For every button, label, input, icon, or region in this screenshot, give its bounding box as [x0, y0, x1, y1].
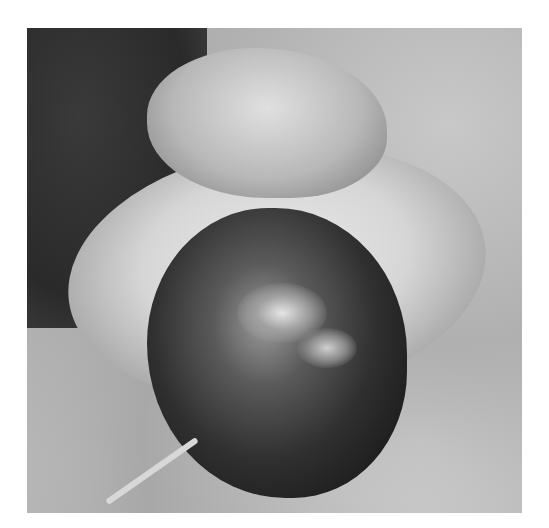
specular-highlight-secondary — [297, 328, 357, 368]
clinical-photograph — [27, 28, 522, 513]
